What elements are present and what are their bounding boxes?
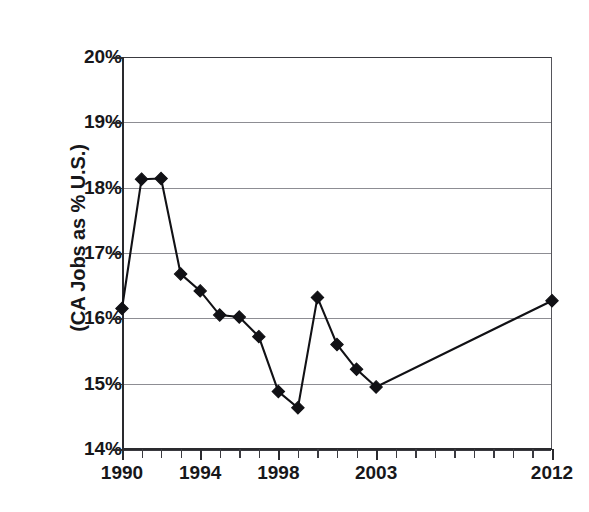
x-tick-mark-minor <box>220 449 221 458</box>
x-tick-mark-minor <box>142 449 143 458</box>
y-axis-ticks: 20%19%18%17%16%15%14% <box>0 0 122 512</box>
x-tick-mark-minor <box>298 449 299 458</box>
x-tick-mark-minor <box>161 449 162 458</box>
plot-area <box>122 57 552 449</box>
x-tick-mark-minor <box>239 449 240 458</box>
x-tick-mark-minor <box>532 449 533 458</box>
x-tick-label: 1990 <box>101 462 143 484</box>
x-tick-mark-minor <box>357 449 358 458</box>
x-tick-mark-minor <box>396 449 397 458</box>
x-tick-mark-minor <box>337 449 338 458</box>
x-tick-mark-minor <box>317 449 318 458</box>
x-tick-mark-minor <box>454 449 455 458</box>
x-tick-mark-minor <box>415 449 416 458</box>
gridline <box>124 57 551 58</box>
gridline <box>124 188 551 189</box>
x-tick-mark-major <box>200 449 202 460</box>
gridline <box>124 122 551 123</box>
x-tick-label: 1994 <box>179 462 221 484</box>
x-tick-mark-minor <box>259 449 260 458</box>
x-tick-mark-minor <box>435 449 436 458</box>
x-tick-mark-minor <box>493 449 494 458</box>
x-tick-mark-minor <box>513 449 514 458</box>
line-chart: (CA Jobs as % U.S.) 20%19%18%17%16%15%14… <box>0 0 589 512</box>
gridline <box>124 318 551 319</box>
x-tick-label: 2003 <box>355 462 397 484</box>
x-tick-label: 2012 <box>531 462 573 484</box>
x-tick-mark-major <box>376 449 378 460</box>
x-tick-mark-minor <box>474 449 475 458</box>
x-tick-mark-major <box>552 449 554 460</box>
x-tick-mark-major <box>122 449 124 460</box>
gridline <box>124 384 551 385</box>
x-tick-mark-major <box>278 449 280 460</box>
gridline <box>124 253 551 254</box>
x-tick-mark-minor <box>181 449 182 458</box>
x-tick-label: 1998 <box>257 462 299 484</box>
